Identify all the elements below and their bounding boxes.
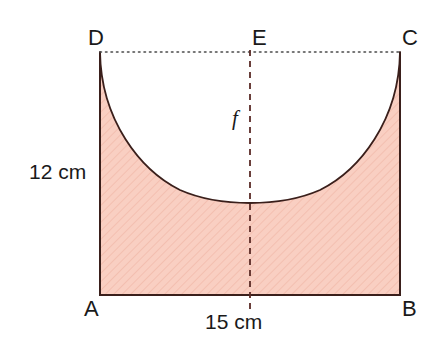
vertex-label-e: E	[252, 27, 267, 49]
vertex-label-a: A	[84, 298, 99, 320]
vertex-label-b: B	[402, 298, 417, 320]
vertex-label-d: D	[88, 27, 104, 49]
height-dimension-label: 12 cm	[29, 161, 86, 182]
width-dimension-label: 15 cm	[205, 311, 262, 332]
vertex-label-c: C	[402, 27, 418, 49]
geometry-figure: D E C A B f 12 cm 15 cm	[0, 0, 433, 341]
curve-function-label: f	[232, 108, 238, 129]
